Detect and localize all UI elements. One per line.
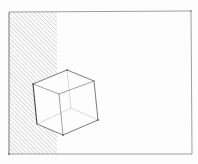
sketch-svg [0,0,198,164]
sketch-canvas [0,0,198,164]
